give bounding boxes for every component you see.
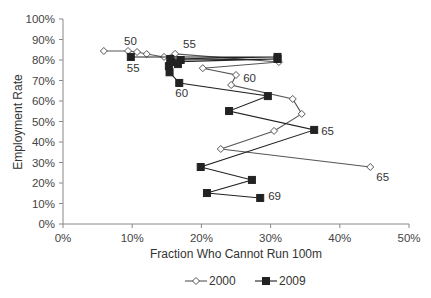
legend-item-2009[interactable]: 2009 xyxy=(255,274,306,288)
square-marker-icon xyxy=(197,164,204,171)
y-tick-label: 90% xyxy=(32,34,55,46)
diamond-marker-icon xyxy=(298,110,305,117)
legend: 20002009 xyxy=(185,274,306,288)
y-tick-label: 0% xyxy=(38,218,55,230)
y-tick-label: 40% xyxy=(32,136,55,148)
point-label: 65 xyxy=(376,171,389,183)
y-tick-label: 20% xyxy=(32,177,55,189)
x-tick-label: 10% xyxy=(121,232,144,244)
diamond-marker-icon xyxy=(217,145,224,152)
x-axis-title: Fraction Who Cannot Run 100m xyxy=(150,247,322,261)
legend-label: 2009 xyxy=(279,274,306,288)
diamond-marker-icon xyxy=(367,164,374,171)
square-marker-icon xyxy=(203,190,210,197)
square-marker-icon xyxy=(263,278,270,285)
y-tick-label: 10% xyxy=(32,198,55,210)
series-line xyxy=(104,51,370,167)
series-2000 xyxy=(100,47,373,170)
square-marker-icon xyxy=(174,61,181,68)
diamond-marker-icon xyxy=(228,82,235,89)
diamond-marker-icon xyxy=(233,71,240,78)
y-tick-label: 50% xyxy=(32,116,55,128)
legend-item-2000[interactable]: 2000 xyxy=(185,274,236,288)
diamond-marker-icon xyxy=(193,278,200,285)
x-tick-label: 0% xyxy=(55,232,72,244)
legend-label: 2000 xyxy=(209,274,236,288)
x-tick-label: 30% xyxy=(259,232,282,244)
y-axis-title: Employment Rate xyxy=(11,74,25,170)
point-label: 60 xyxy=(243,72,256,84)
y-tick-label: 60% xyxy=(32,95,55,107)
point-label: 65 xyxy=(321,125,334,137)
square-marker-icon xyxy=(226,108,233,115)
square-marker-icon xyxy=(274,55,281,62)
point-label: 50 xyxy=(124,35,137,47)
diamond-marker-icon xyxy=(100,47,107,54)
diamond-marker-icon xyxy=(199,65,206,72)
square-marker-icon xyxy=(176,79,183,86)
y-tick-label: 80% xyxy=(32,54,55,66)
chart: 0%10%20%30%40%50%60%70%80%90%100%0%10%20… xyxy=(0,0,431,298)
square-marker-icon xyxy=(248,176,255,183)
diamond-marker-icon xyxy=(271,127,278,134)
x-tick-label: 20% xyxy=(190,232,213,244)
point-label: 69 xyxy=(268,190,281,202)
x-tick-label: 50% xyxy=(397,232,420,244)
series-2009 xyxy=(127,53,317,201)
axes: 0%10%20%30%40%50%60%70%80%90%100%0%10%20… xyxy=(26,13,421,244)
point-label: 60 xyxy=(175,87,188,99)
square-marker-icon xyxy=(127,53,134,60)
point-label: 55 xyxy=(127,62,140,74)
y-tick-label: 30% xyxy=(32,157,55,169)
y-tick-label: 100% xyxy=(26,13,55,25)
series-line xyxy=(131,57,314,198)
square-marker-icon xyxy=(264,93,271,100)
x-tick-label: 40% xyxy=(328,232,351,244)
square-marker-icon xyxy=(311,126,318,133)
point-label: 55 xyxy=(183,38,196,50)
square-marker-icon xyxy=(257,194,264,201)
diamond-marker-icon xyxy=(289,95,296,102)
square-marker-icon xyxy=(166,69,173,76)
y-tick-label: 70% xyxy=(32,75,55,87)
